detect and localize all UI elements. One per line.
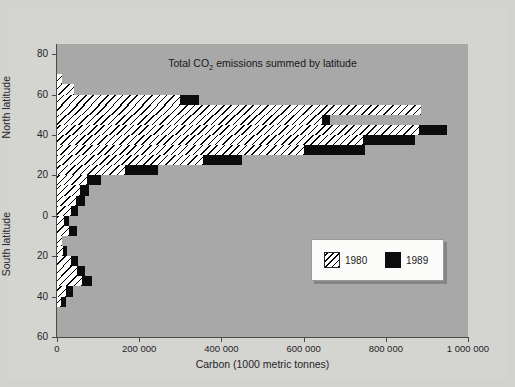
bar-1980 bbox=[57, 74, 62, 84]
legend-label-1980: 1980 bbox=[345, 255, 367, 266]
chart-legend: 1980 1989 bbox=[311, 239, 444, 281]
bar-1980 bbox=[57, 95, 180, 105]
x-axis-tick bbox=[221, 338, 222, 342]
x-axis-title: Carbon (1000 metric tonnes) bbox=[57, 358, 468, 370]
x-axis-tick bbox=[468, 338, 469, 342]
x-axis-tick-label: 1 000 000 bbox=[433, 343, 503, 354]
y-axis-tick-label: 0 bbox=[26, 210, 48, 221]
legend-swatch-1989-icon bbox=[385, 252, 401, 268]
x-axis-tick-label: 600 000 bbox=[269, 343, 339, 354]
y-axis-tick bbox=[52, 95, 56, 96]
y-axis-tick-label: 60 bbox=[26, 331, 48, 342]
y-axis-label-north: North latitude bbox=[0, 76, 12, 138]
x-axis-line bbox=[56, 337, 469, 338]
bar-1980 bbox=[57, 246, 63, 256]
x-axis-tick bbox=[304, 338, 305, 342]
y-axis-tick bbox=[52, 216, 56, 217]
x-axis-tick-label: 0 bbox=[22, 343, 92, 354]
legend-label-1989: 1989 bbox=[406, 255, 428, 266]
y-axis-tick bbox=[52, 297, 56, 298]
y-axis-tick-label: 20 bbox=[26, 250, 48, 261]
legend-swatch-1980-icon bbox=[324, 252, 340, 268]
bar-1980 bbox=[57, 84, 74, 94]
bar-1980 bbox=[57, 256, 71, 266]
x-axis-tick-label: 800 000 bbox=[351, 343, 421, 354]
x-axis-tick bbox=[57, 338, 58, 342]
plot-title-rest: emissions summed by latitude bbox=[213, 57, 357, 69]
bar-1980 bbox=[57, 145, 304, 155]
plot-title: Total CO2 emissions summed by latitude bbox=[57, 57, 468, 72]
x-axis-tick-label: 200 000 bbox=[104, 343, 174, 354]
bar-1980 bbox=[57, 206, 71, 216]
bar-1980 bbox=[57, 226, 69, 236]
y-axis-tick bbox=[52, 337, 56, 338]
bar-1980 bbox=[57, 266, 77, 276]
y-axis-tick bbox=[52, 256, 56, 257]
x-axis-tick-label: 400 000 bbox=[186, 343, 256, 354]
bar-1980 bbox=[57, 185, 80, 195]
figure-canvas: Total CO2 emissions summed by latitude 1… bbox=[0, 0, 515, 387]
bar-1980 bbox=[57, 165, 125, 175]
bar-1980 bbox=[57, 105, 421, 115]
y-axis-tick bbox=[52, 175, 56, 176]
y-axis-label-south: South latitude bbox=[0, 212, 12, 276]
x-axis-tick bbox=[139, 338, 140, 342]
y-axis-tick-label: 80 bbox=[26, 48, 48, 59]
y-axis-tick-label: 40 bbox=[26, 291, 48, 302]
bar-1980 bbox=[57, 276, 82, 286]
x-axis-tick bbox=[386, 338, 387, 342]
bar-1980 bbox=[57, 115, 322, 125]
bar-1980 bbox=[57, 216, 64, 226]
y-axis-tick-label: 20 bbox=[26, 169, 48, 180]
y-axis-tick bbox=[52, 54, 56, 55]
bar-1980 bbox=[57, 196, 76, 206]
legend-item-1980[interactable]: 1980 bbox=[324, 252, 367, 268]
y-axis-line bbox=[56, 44, 57, 338]
legend-item-1989[interactable]: 1989 bbox=[385, 252, 428, 268]
bar-1980 bbox=[57, 135, 363, 145]
plot-title-main: Total CO bbox=[168, 57, 209, 69]
y-axis-tick-label: 60 bbox=[26, 89, 48, 100]
bar-1980 bbox=[57, 236, 62, 246]
bar-1980 bbox=[57, 125, 419, 135]
y-axis-tick bbox=[52, 135, 56, 136]
bar-1980 bbox=[57, 175, 87, 185]
bar-1980 bbox=[57, 297, 61, 307]
bar-1980 bbox=[57, 155, 203, 165]
plot-area: Total CO2 emissions summed by latitude bbox=[57, 44, 468, 337]
bar-1980 bbox=[57, 286, 66, 296]
y-axis-tick-label: 40 bbox=[26, 129, 48, 140]
